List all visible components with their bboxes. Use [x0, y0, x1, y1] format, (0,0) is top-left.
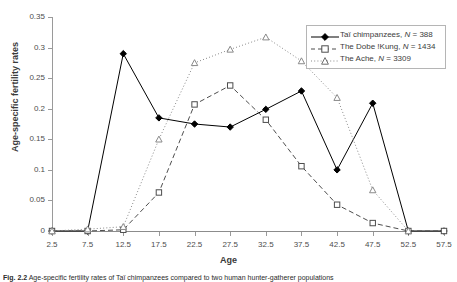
data-point-marker [334, 167, 340, 173]
data-point-marker [334, 202, 339, 207]
data-point-marker [156, 190, 161, 195]
legend-label-tai-chimpanzees: Taï chimpanzees, N = 388 [340, 29, 433, 41]
legend-label-dobe-kung: The Dobe !Kung, N = 1434 [340, 41, 435, 53]
data-point-marker [227, 46, 233, 52]
caption-text: Age-specific fertility rates of Taï chim… [29, 274, 334, 281]
data-point-marker [156, 115, 162, 121]
data-point-marker [370, 220, 375, 225]
data-point-marker [263, 117, 268, 122]
series-line [52, 85, 444, 231]
data-point-marker [370, 187, 376, 193]
caption-figure-number: Fig. 2.2 [3, 274, 27, 281]
data-point-marker [441, 228, 446, 233]
series-2 [49, 83, 446, 234]
figure-caption: Fig. 2.2 Age-specific fertility rates of… [3, 273, 454, 282]
legend-row[interactable]: Taï chimpanzees, N = 388 [310, 29, 441, 41]
legend-label-ache: The Ache, N = 3309 [340, 53, 411, 65]
data-point-marker [192, 102, 197, 107]
data-point-marker [263, 34, 269, 40]
data-point-marker [263, 106, 269, 112]
legend-row[interactable]: The Dobe !Kung, N = 1434 [310, 41, 441, 53]
data-point-marker [191, 60, 197, 66]
legend-key-ache [310, 53, 340, 65]
data-point-marker [120, 50, 126, 56]
data-point-marker [299, 163, 304, 168]
data-point-marker [370, 100, 376, 106]
data-point-marker [156, 136, 162, 142]
data-point-marker [298, 58, 304, 64]
data-point-marker [227, 83, 232, 88]
data-point-marker [298, 88, 304, 94]
figure-container: 00.050.10.150.20.250.30.35 2.57.512.517.… [0, 0, 457, 282]
data-point-marker [227, 124, 233, 130]
data-point-marker [120, 224, 126, 230]
legend-key-dobe-kung [310, 41, 340, 53]
legend-key-tai-chimpanzees [310, 29, 340, 41]
legend-row[interactable]: The Ache, N = 3309 [310, 53, 441, 65]
legend: Taï chimpanzees, N = 388 The Dobe !Kung,… [306, 25, 446, 69]
data-point-marker [191, 121, 197, 127]
